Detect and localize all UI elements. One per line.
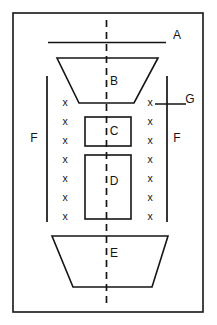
- label-b: B: [110, 74, 118, 88]
- x-mark: x: [62, 172, 68, 184]
- x-mark: x: [62, 96, 68, 108]
- lower-trapezoid-e: [52, 236, 168, 287]
- x-mark: x: [62, 134, 68, 146]
- label-e: E: [110, 246, 118, 260]
- label-f-right: F: [173, 131, 180, 145]
- x-mark: x: [147, 96, 153, 108]
- technical-diagram: x x x x x x x x x x x x x x A B C D E F …: [0, 0, 217, 325]
- x-mark: x: [147, 210, 153, 222]
- x-mark: x: [62, 153, 68, 165]
- x-mark: x: [147, 153, 153, 165]
- label-c: C: [110, 124, 119, 138]
- lower-rectangle-d: [85, 155, 131, 219]
- x-mark: x: [62, 115, 68, 127]
- label-a: A: [173, 28, 181, 42]
- x-mark-column-left: x x x x x x x: [62, 96, 68, 222]
- x-mark: x: [147, 172, 153, 184]
- figure-container: x x x x x x x x x x x x x x A B C D E F …: [0, 0, 217, 325]
- x-mark-column-right: x x x x x x x: [147, 96, 153, 222]
- x-mark: x: [62, 210, 68, 222]
- x-mark: x: [147, 115, 153, 127]
- upper-rectangle-c: [85, 117, 131, 146]
- label-d: D: [110, 174, 119, 188]
- x-mark: x: [147, 134, 153, 146]
- x-mark: x: [62, 191, 68, 203]
- x-mark: x: [147, 191, 153, 203]
- label-g: G: [185, 92, 194, 106]
- label-f-left: F: [30, 131, 37, 145]
- upper-trapezoid-b: [57, 58, 158, 103]
